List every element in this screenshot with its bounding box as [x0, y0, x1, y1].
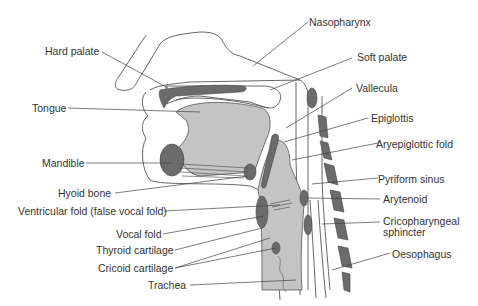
label-nasopharynx: Nasopharynx	[309, 16, 371, 28]
label-tongue: Tongue	[32, 102, 66, 114]
label-epiglottis: Epiglottis	[371, 112, 414, 124]
thyroid-shape	[256, 196, 268, 228]
tongue-shape	[176, 102, 270, 176]
label-sphincter: sphincter	[383, 226, 426, 238]
label-hard-palate: Hard palate	[45, 45, 99, 57]
label-arytenoid: Arytenoid	[383, 193, 427, 205]
label-trachea: Trachea	[148, 279, 186, 291]
label-mandible: Mandible	[42, 157, 85, 169]
label-pyriform-sinus: Pyriform sinus	[378, 173, 445, 185]
mandible-shape	[160, 144, 184, 176]
label-thyroid-cartilage: Thyroid cartilage	[96, 244, 174, 256]
label-soft-palate: Soft palate	[357, 51, 407, 63]
label-hyoid-bone: Hyoid bone	[58, 187, 111, 199]
cricopharyngeal-shape	[304, 215, 312, 235]
label-aryepiglottic-fold: Aryepiglottic fold	[376, 138, 453, 150]
label-vallecula: Vallecula	[356, 82, 398, 94]
label-vocal-fold: Vocal fold	[116, 228, 162, 240]
label-cricoid-cartilage: Cricoid cartilage	[98, 262, 173, 274]
label-ventricular-fold: Ventricular fold (false vocal fold)	[18, 205, 167, 217]
label-oesophagus: Oesophagus	[392, 248, 452, 260]
